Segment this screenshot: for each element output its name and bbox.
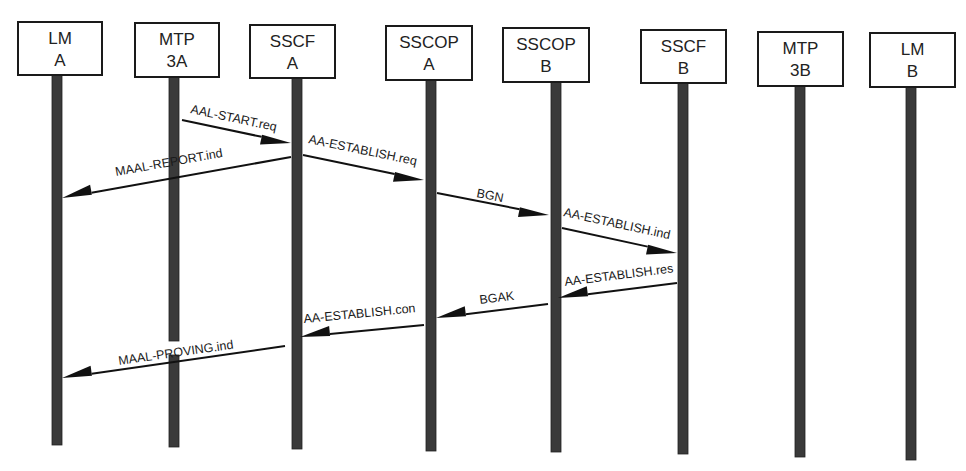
message-arrow: AA-ESTABLISH.req [303,132,424,182]
entity-mtp-3b: MTP3B [758,32,843,86]
entities: LMAMTP3ASSCFASSCOPASSCOPBSSCFBMTP3BLMB [18,22,955,87]
entity-sscf-b: SSCFB [641,30,726,83]
entity-label-line1: MTP [159,30,195,49]
sequence-diagram: LMAMTP3ASSCFASSCOPASSCOPBSSCFBMTP3BLMB A… [0,0,966,471]
arrowhead-icon [62,366,92,378]
lifeline-sscf-b [678,83,688,454]
lifelines [52,75,916,460]
message-label: AA-ESTABLISH.req [307,132,418,168]
lifeline-mtp-3a [169,355,179,447]
arrowhead-icon [300,326,330,337]
entity-label-line1: SSCF [270,32,315,51]
message-line [466,304,548,314]
lifeline-sscop-b [551,82,561,452]
entity-label-line2: A [54,51,66,70]
message-arrow: AAL-START.req [182,102,291,144]
arrowhead-icon [393,172,424,182]
entity-lm-b: LMB [870,33,955,87]
entity-label-line1: LM [48,29,72,48]
lifeline-sscf-a [292,78,302,449]
arrowhead-icon [436,306,466,318]
entity-label-line1: MTP [783,39,819,58]
lifeline-lm-b [906,87,916,460]
lifeline-mtp-3a [169,77,179,341]
message-arrow: BGAK [436,289,548,318]
entity-label-line2: A [287,54,299,73]
lifeline-lm-a [52,75,62,445]
message-label: AA-ESTABLISH.con [303,301,416,326]
lifeline-mtp-3b [795,86,805,457]
entity-label-line2: A [423,55,435,74]
message-arrow: AA-ESTABLISH.ind [562,205,677,254]
entity-mtp-3a: MTP3A [135,23,219,77]
message-line [330,325,424,334]
entity-label-line2: B [678,59,689,78]
entity-label-line1: LM [901,40,925,59]
entity-sscf-a: SSCFA [250,25,335,78]
entity-sscop-b: SSCOPB [503,28,589,82]
arrowhead-icon [518,207,549,217]
entity-label-line2: 3B [790,61,811,80]
message-label: AAL-START.req [189,102,278,134]
entity-label-line2: B [540,57,551,76]
entity-label-line2: B [907,62,918,81]
entity-label-line1: SSCF [661,37,706,56]
message-label: BGAK [479,289,516,307]
entity-label-line2: 3A [167,52,188,71]
entity-label-line1: SSCOP [399,33,459,52]
message-line [588,283,677,294]
arrowhead-icon [646,245,677,255]
arrowhead-icon [260,135,291,145]
entity-lm-a: LMA [18,22,102,75]
messages: AAL-START.reqMAAL-REPORT.indAA-ESTABLISH… [62,102,677,378]
lifeline-sscop-a [426,80,436,451]
message-arrow: AA-ESTABLISH.res [558,261,677,298]
message-label: AA-ESTABLISH.ind [562,205,671,242]
arrowhead-icon [62,185,92,198]
arrowhead-icon [558,286,588,298]
entity-label-line1: SSCOP [516,35,576,54]
message-arrow: AA-ESTABLISH.con [300,301,424,337]
entity-sscop-a: SSCOPA [386,26,472,80]
message-arrow: BGN [437,186,549,217]
